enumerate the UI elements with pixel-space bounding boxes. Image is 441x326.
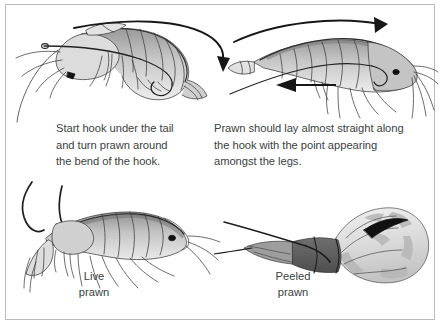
illustration-prawn-straight-on-hook — [228, 14, 440, 126]
curved-rotation-arrow — [234, 17, 388, 42]
caption-right: Prawn should lay almost straight along t… — [214, 120, 424, 170]
prawn-hooking-figure: Start hook under the tail and turn prawn… — [0, 0, 441, 326]
label-peeled-prawn: Peeled prawn — [258, 269, 328, 300]
illustration-prawn-curved-on-hook — [14, 16, 244, 124]
label-live-prawn: Live prawn — [62, 269, 126, 300]
caption-left: Start hook under the tail and turn prawn… — [56, 120, 221, 170]
